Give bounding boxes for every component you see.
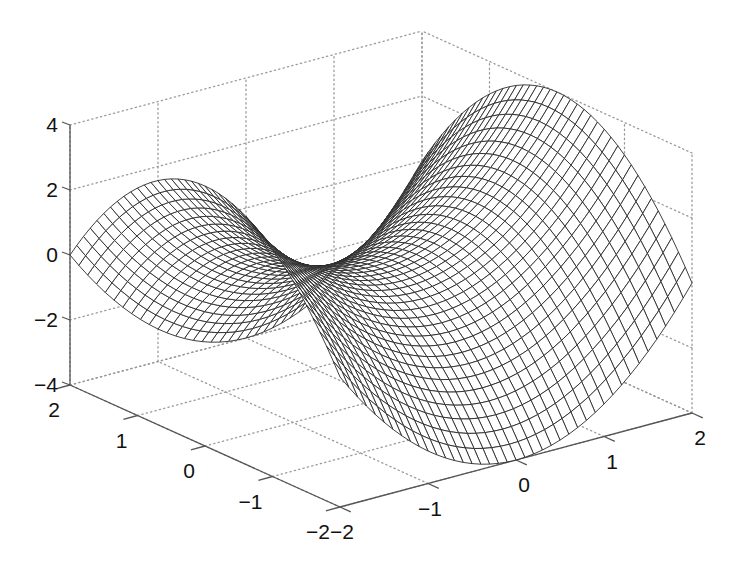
x-tick-label: 1 <box>606 450 618 473</box>
z-tick-label: −4 <box>34 373 58 396</box>
y-tick-label: 2 <box>48 398 60 421</box>
y-tick <box>258 477 272 481</box>
z-tick <box>62 382 70 385</box>
z-tick <box>62 252 70 255</box>
x-tick <box>340 507 351 512</box>
y-tick <box>191 446 205 450</box>
z-tick-label: 2 <box>46 178 58 201</box>
z-tick-label: 4 <box>46 113 58 136</box>
y-tick <box>326 507 340 511</box>
y-tick-label: −2 <box>306 520 330 543</box>
y-tick-label: 0 <box>183 459 195 482</box>
y-tick-label: −1 <box>239 490 263 513</box>
x-tick <box>516 460 527 465</box>
y-tick <box>123 416 137 420</box>
x-tick-label: −1 <box>418 497 442 520</box>
z-tick <box>62 317 70 320</box>
z-tick-label: −2 <box>34 308 58 331</box>
surface-mesh <box>70 85 692 464</box>
x-tick <box>692 413 703 418</box>
y-tick <box>56 385 70 389</box>
z-tick-label: 0 <box>46 243 58 266</box>
x-tick-label: 0 <box>518 473 530 496</box>
x-tick <box>604 437 615 442</box>
x-tick-label: 2 <box>694 426 706 449</box>
x-tick <box>428 484 439 489</box>
y-tick-label: 1 <box>116 429 128 452</box>
saddle-surface-chart: −2−1012−2−1012−4−2024 <box>0 0 743 567</box>
z-tick <box>62 187 70 190</box>
z-tick <box>62 122 70 125</box>
x-tick-label: −2 <box>330 520 354 543</box>
